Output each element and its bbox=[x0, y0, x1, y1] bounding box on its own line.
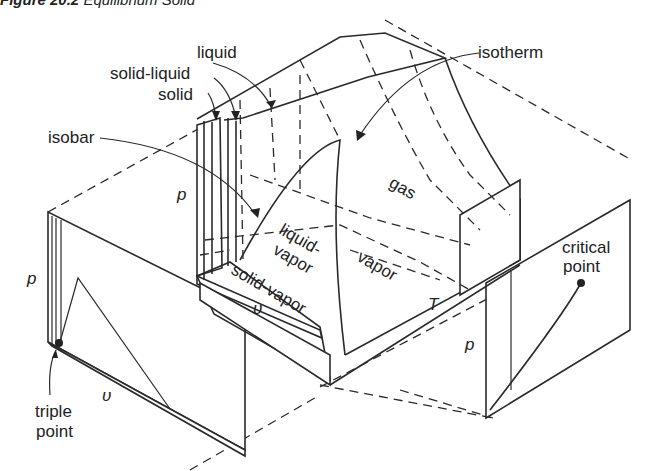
axis-pv-v: υ bbox=[102, 386, 111, 405]
label-isotherm: isotherm bbox=[478, 43, 543, 62]
label-liquid: liquid bbox=[197, 43, 237, 62]
axis-surface-p: p bbox=[176, 185, 186, 204]
label-solid-liquid: solid-liquid bbox=[110, 64, 190, 83]
axis-pt-p: p bbox=[464, 335, 474, 354]
label-vapor: vapor bbox=[354, 247, 401, 285]
label-triple-point-line1: triple bbox=[35, 402, 72, 421]
axis-surface-T: T bbox=[428, 295, 440, 314]
label-solid: solid bbox=[158, 85, 193, 104]
label-critical-point-line2: point bbox=[563, 257, 600, 276]
axis-pv-p: p bbox=[26, 269, 36, 288]
label-triple-point-line2: point bbox=[36, 422, 73, 441]
label-isobar: isobar bbox=[48, 128, 95, 147]
axis-surface-v: υ bbox=[253, 299, 262, 318]
critical-point-marker bbox=[577, 279, 585, 287]
label-critical-point-line1: critical bbox=[562, 238, 610, 257]
pvt-surface-diagram: liquid solid-liquid solid isobar isother… bbox=[0, 0, 653, 471]
label-gas: gas bbox=[386, 173, 419, 203]
pvt-surface bbox=[197, 33, 520, 385]
triple-point-marker bbox=[55, 339, 63, 347]
